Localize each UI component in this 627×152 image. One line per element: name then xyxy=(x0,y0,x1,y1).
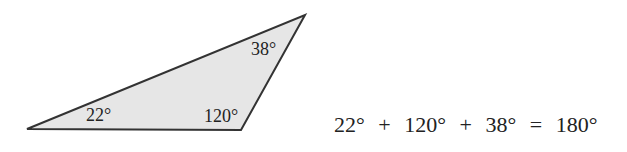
equation-plus-2: + xyxy=(460,112,472,138)
equation-equals: = xyxy=(530,112,542,138)
angle-label-top: 38° xyxy=(251,39,276,59)
equation-term-3: 38° xyxy=(485,112,516,138)
equation-plus-1: + xyxy=(378,112,390,138)
equation-term-2: 120° xyxy=(404,112,446,138)
equation-term-1: 22° xyxy=(334,112,365,138)
triangle xyxy=(27,15,305,130)
angle-sum-equation: 22° + 120° + 38° = 180° xyxy=(334,112,598,138)
angle-label-bottom-right: 120° xyxy=(204,106,238,126)
equation-result: 180° xyxy=(556,112,598,138)
angle-label-left: 22° xyxy=(86,105,111,125)
